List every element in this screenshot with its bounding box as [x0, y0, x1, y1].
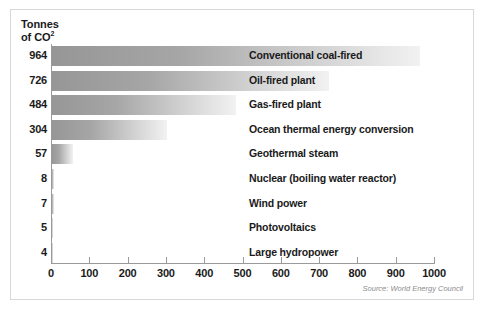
bar-category-label: Photovoltaics [249, 221, 316, 233]
bar-category-label: Nuclear (boiling water reactor) [249, 172, 396, 184]
x-axis-tick-label: 700 [310, 267, 328, 279]
bar-category-label: Gas-fired plant [249, 98, 321, 110]
bar-category-label: Conventional coal-fired [249, 49, 362, 61]
bar-row: 57Geothermal steam [11, 142, 475, 167]
bar-value-label: 7 [11, 197, 47, 209]
bar-row: 484Gas-fired plant [11, 93, 475, 118]
x-axis-tick-label: 500 [234, 267, 252, 279]
x-axis-tick-label: 400 [195, 267, 213, 279]
bar-row: 7Wind power [11, 192, 475, 217]
x-axis-tick-label: 900 [387, 267, 405, 279]
bar-value-label: 304 [11, 123, 47, 135]
bar-category-label: Wind power [249, 197, 307, 209]
bar-category-label: Geothermal steam [249, 147, 338, 159]
bar-category-label: Large hydropower [249, 246, 338, 258]
y-axis-line [51, 44, 52, 264]
x-axis-tick-label: 200 [119, 267, 137, 279]
bar-value-label: 5 [11, 221, 47, 233]
bar-row: 726Oil-fired plant [11, 69, 475, 94]
x-axis-tick-label: 0 [48, 267, 54, 279]
bar-row: 8Nuclear (boiling water reactor) [11, 167, 475, 192]
x-axis-tick [434, 257, 435, 264]
x-axis-tick-label: 100 [80, 267, 98, 279]
bar-row: 5Photovoltaics [11, 216, 475, 241]
bar-value-label: 726 [11, 74, 47, 86]
chart-frame: Tonnesof CO2 964Conventional coal-fired7… [10, 9, 474, 300]
bar-value-label: 57 [11, 147, 47, 159]
bar-value-label: 484 [11, 98, 47, 110]
bar-value-label: 8 [11, 172, 47, 184]
bar-row: 964Conventional coal-fired [11, 44, 475, 69]
x-axis-tick-label: 800 [349, 267, 367, 279]
x-axis-line [51, 263, 434, 264]
plot-area: 964Conventional coal-fired726Oil-fired p… [11, 10, 475, 301]
x-axis-tick-label: 600 [272, 267, 290, 279]
bar [51, 46, 420, 66]
bar-category-label: Ocean thermal energy conversion [249, 123, 414, 135]
bar-value-label: 964 [11, 49, 47, 61]
x-axis-tick-label: 300 [157, 267, 175, 279]
bar [51, 144, 73, 164]
bar-row: 304Ocean thermal energy conversion [11, 118, 475, 143]
bar-value-label: 4 [11, 246, 47, 258]
bar [51, 120, 167, 140]
bar [51, 95, 236, 115]
bar-category-label: Oil-fired plant [249, 74, 315, 86]
x-axis-tick-label: 1000 [422, 267, 446, 279]
source-note: Source: World Energy Council [363, 284, 463, 293]
